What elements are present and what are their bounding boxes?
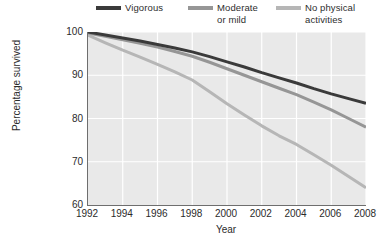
chart-figure: Vigorous Moderate or mild No physical ac… — [0, 0, 384, 245]
y-axis-tick-label: 90 — [72, 70, 83, 80]
legend-label-moderate-or-mild: Moderate or mild — [217, 2, 258, 25]
x-axis-tick-label: 1994 — [111, 208, 133, 220]
legend-entry-moderate-or-mild: Moderate or mild — [188, 2, 276, 25]
series-line — [88, 35, 366, 188]
x-axis-tick-label: 2000 — [215, 208, 237, 220]
y-axis-tick-label: 80 — [72, 114, 83, 124]
x-axis-tick-label: 1998 — [180, 208, 202, 220]
legend-label-vigorous: Vigorous — [125, 2, 163, 14]
legend-entry-no-physical-activities: No physical activities — [276, 2, 380, 25]
legend-label-no-physical-activities: No physical activities — [305, 2, 355, 25]
y-axis-title: Percentage survived — [11, 26, 22, 146]
data-series-lines — [88, 32, 366, 205]
legend-entry-vigorous: Vigorous — [96, 2, 188, 14]
series-line — [88, 33, 366, 127]
legend-swatch-no-physical-activities — [276, 6, 301, 10]
y-axis-tick-label: 70 — [72, 157, 83, 167]
legend-swatch-vigorous — [96, 6, 121, 10]
plot-area — [87, 32, 366, 206]
x-axis-tick-label: 2008 — [354, 208, 376, 220]
x-axis-tick-label: 1992 — [76, 208, 98, 220]
x-axis-title: Year — [87, 224, 365, 235]
x-axis-tick-label: 1996 — [145, 208, 167, 220]
y-axis-tick-labels: 60708090100 — [58, 32, 83, 205]
footer-caption-sliver — [6, 239, 378, 245]
y-axis-tick-label: 100 — [66, 27, 83, 37]
x-axis-tick-label: 2002 — [250, 208, 272, 220]
chart-legend: Vigorous Moderate or mild No physical ac… — [96, 2, 384, 30]
x-axis-tick-label: 2006 — [319, 208, 341, 220]
x-axis-tick-label: 2004 — [284, 208, 306, 220]
legend-swatch-moderate-or-mild — [188, 6, 213, 10]
x-axis-tick-labels: 199219941996199820002002200420062008 — [87, 208, 365, 222]
